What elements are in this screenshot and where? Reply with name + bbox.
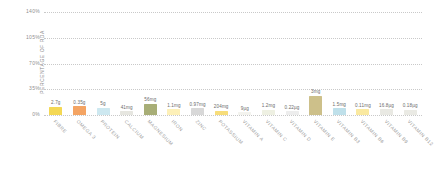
bar-value-label: 9µg (241, 106, 249, 111)
x-axis-category-label: FIBRE (52, 119, 67, 134)
plot-area: 0%35%70%105%140% 2.7g0.35g5g41mg56mg1.1m… (44, 12, 422, 115)
bar-value-label: 0.97mg (189, 102, 205, 107)
x-label-slot: VITAMIN D (280, 117, 304, 171)
x-label-slot: CALCIUM (115, 117, 139, 171)
bar-value-label: 0.35g (73, 100, 85, 105)
bar-slot[interactable]: 0.35g (68, 12, 92, 115)
bar-slot[interactable]: 0.18µg (398, 12, 422, 115)
x-label-slot: POTASSIUM (209, 117, 233, 171)
x-label-slot: PROTEIN (91, 117, 115, 171)
bar[interactable] (144, 104, 157, 115)
y-axis-tick-label: 35% (29, 85, 40, 91)
bar-slot[interactable]: 0.11mg (351, 12, 375, 115)
x-label-slot: VITAMIN E (304, 117, 328, 171)
bar-value-label: 16.8µg (379, 103, 394, 108)
bar[interactable] (73, 106, 86, 115)
bar-value-label: 0.11mg (355, 103, 371, 108)
bar-value-label: 0.22µg (285, 105, 300, 110)
bar-value-label: 56mg (144, 97, 156, 102)
bar-slot[interactable]: 41mg (115, 12, 139, 115)
y-axis-tick-label: 0% (32, 111, 40, 117)
x-axis-category-label: IRON (170, 119, 183, 132)
x-axis-category-label: VITAMIN B12 (407, 119, 435, 147)
bar[interactable] (309, 96, 322, 115)
bar-slot[interactable]: 2.7g (44, 12, 68, 115)
y-axis-tick-label: 70% (29, 60, 40, 66)
x-label-slot: VITAMIN B6 (351, 117, 375, 171)
bar-slot[interactable]: 0.97mg (186, 12, 210, 115)
x-axis-category-label: ZINC (194, 119, 207, 132)
bar-slot[interactable]: 16.8µg (375, 12, 399, 115)
bar-slot[interactable]: 5g (91, 12, 115, 115)
bar[interactable] (49, 107, 62, 115)
bar-slot[interactable]: 1.5mg (328, 12, 352, 115)
x-label-slot: VITAMIN A (233, 117, 257, 171)
bar[interactable] (215, 111, 228, 115)
bar-value-label: 41mg (121, 105, 133, 110)
x-label-slot: VITAMIN B12 (398, 117, 422, 171)
bar[interactable] (120, 111, 133, 115)
bar[interactable] (167, 109, 180, 115)
bar[interactable] (191, 108, 204, 115)
bar[interactable] (380, 109, 393, 115)
bar[interactable] (262, 110, 275, 115)
bar-slot[interactable]: 3mg (304, 12, 328, 115)
bar-series: 2.7g0.35g5g41mg56mg1.1mg0.97mg204mg9µg1.… (44, 12, 422, 115)
x-label-slot: VITAMIN B3 (328, 117, 352, 171)
bar[interactable] (404, 110, 417, 115)
x-label-slot: IRON (162, 117, 186, 171)
bar-slot[interactable]: 9µg (233, 12, 257, 115)
bar-slot[interactable]: 1.2mg (257, 12, 281, 115)
x-label-slot: VITAMIN B9 (375, 117, 399, 171)
x-label-slot: VITAMIN C (257, 117, 281, 171)
bar-slot[interactable]: 0.22µg (280, 12, 304, 115)
x-label-slot: OMEGA 3 (68, 117, 92, 171)
bar-slot[interactable]: 204mg (209, 12, 233, 115)
x-axis-category-labels: FIBREOMEGA 3PROTEINCALCIUMMAGNESIUMIRONZ… (44, 117, 422, 171)
bar-slot[interactable]: 56mg (139, 12, 163, 115)
bar-value-label: 3mg (311, 89, 320, 94)
bar[interactable] (286, 111, 299, 115)
bar[interactable] (97, 108, 110, 115)
y-axis-tick-label: 140% (26, 8, 40, 14)
bar-slot[interactable]: 1.1mg (162, 12, 186, 115)
x-label-slot: FIBRE (44, 117, 68, 171)
bar[interactable] (238, 112, 251, 115)
bar[interactable] (356, 109, 369, 115)
bar-value-label: 1.2mg (262, 103, 276, 108)
y-axis-tick-label: 105% (26, 34, 40, 40)
bar-value-label: 1.1mg (167, 103, 181, 108)
bar-value-label: 204mg (214, 104, 229, 109)
x-label-slot: ZINC (186, 117, 210, 171)
x-label-slot: MAGNESIUM (139, 117, 163, 171)
bar[interactable] (333, 108, 346, 115)
bar-value-label: 1.5mg (333, 102, 347, 107)
bar-value-label: 0.18µg (403, 103, 418, 108)
bar-value-label: 5g (100, 101, 105, 106)
gridline (44, 115, 422, 116)
bar-value-label: 2.7g (51, 100, 61, 105)
